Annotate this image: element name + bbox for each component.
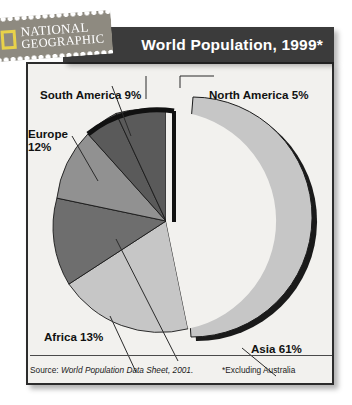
footer-source: Source: World Population Data Sheet, 200… [30, 365, 193, 375]
footer-source-prefix: Source: [30, 365, 61, 375]
label-south-america: South America 9% [40, 88, 141, 101]
infographic-root: South America 9% North America 5% Europe… [0, 0, 352, 405]
footer-source-title: World Population Data Sheet, 2001. [61, 365, 193, 375]
label-europe-line1: Europe [28, 127, 68, 140]
footer-note: *Excluding Australia [222, 365, 295, 375]
natgeo-wordmark: NATIONAL GEOGRAPHIC [20, 20, 104, 51]
page-title: World Population, 1999* [141, 36, 323, 54]
label-north-america: North America 5% [209, 88, 308, 101]
chart-footer: Source: World Population Data Sheet, 200… [30, 359, 330, 381]
label-asia: Asia 61% [251, 342, 302, 355]
national-geographic-logo: NATIONAL GEOGRAPHIC [0, 10, 113, 63]
label-europe-line2: 12% [28, 140, 51, 153]
footer-divider [30, 355, 332, 356]
label-europe: Europe 12% [28, 127, 68, 153]
natgeo-rectangle-icon [0, 29, 16, 49]
label-africa: Africa 13% [44, 330, 103, 343]
